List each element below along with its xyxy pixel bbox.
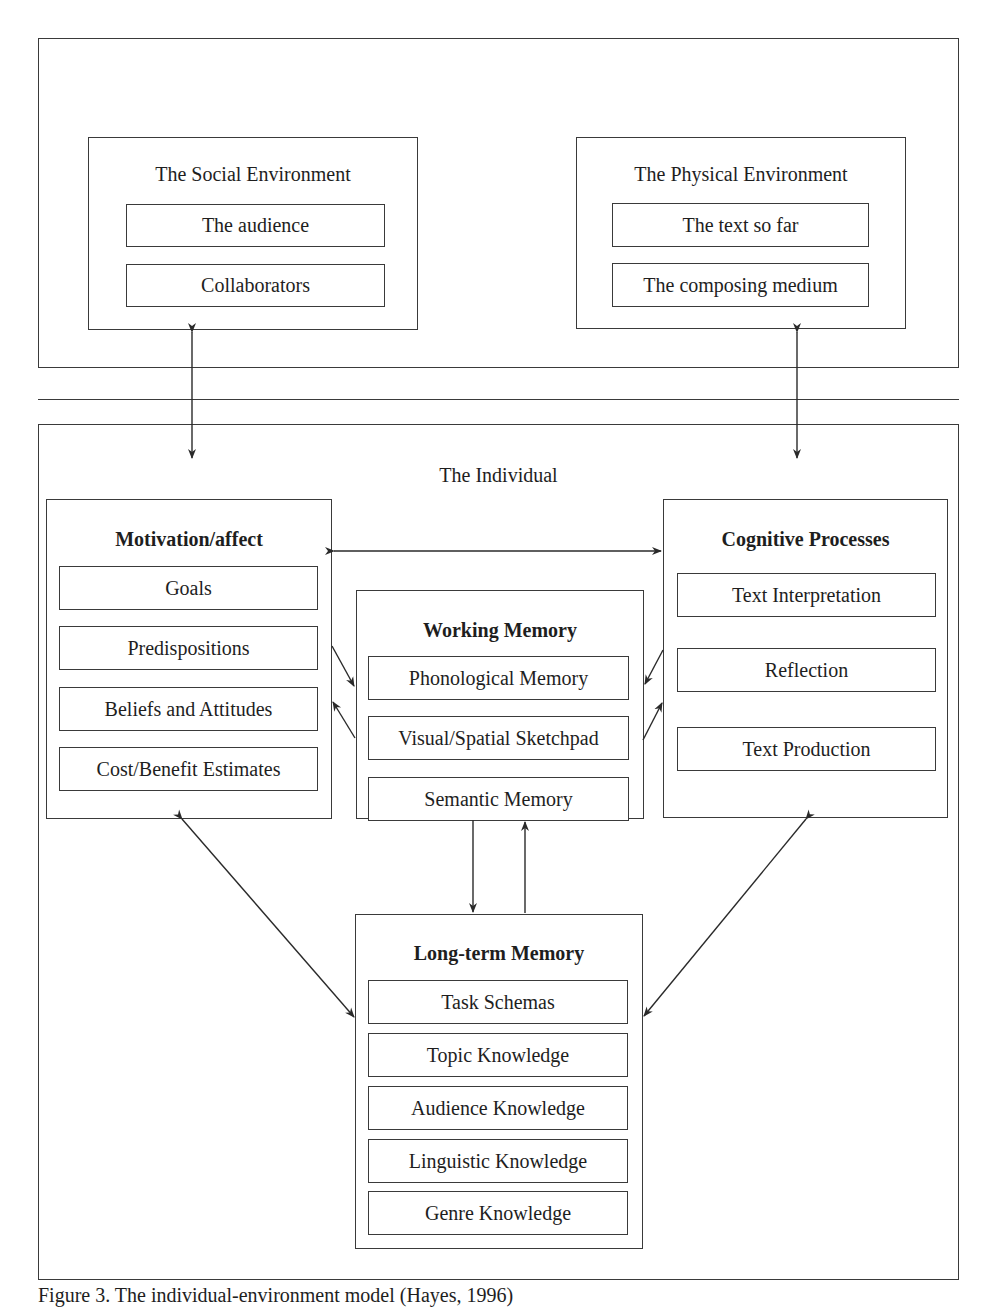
separator-line (38, 399, 959, 400)
physical-item-text-so-far: The text so far (612, 203, 869, 247)
long-term-memory-title: Long-term Memory (355, 942, 643, 965)
social-environment-title: The Social Environment (88, 163, 418, 186)
wm-item-semantic: Semantic Memory (368, 777, 629, 821)
cognitive-processes-title: Cognitive Processes (663, 528, 948, 551)
motivation-item-beliefs: Beliefs and Attitudes (59, 687, 318, 731)
motivation-item-predispositions: Predispositions (59, 626, 318, 670)
ltm-item-topic-knowledge: Topic Knowledge (368, 1033, 628, 1077)
wm-item-phonological: Phonological Memory (368, 656, 629, 700)
cognitive-item-text-production: Text Production (677, 727, 936, 771)
motivation-title: Motivation/affect (46, 528, 332, 551)
physical-environment-title: The Physical Environment (576, 163, 906, 186)
ltm-item-genre-knowledge: Genre Knowledge (368, 1191, 628, 1235)
ltm-item-audience-knowledge: Audience Knowledge (368, 1086, 628, 1130)
ltm-item-task-schemas: Task Schemas (368, 980, 628, 1024)
social-item-collaborators: Collaborators (126, 264, 385, 307)
motivation-item-goals: Goals (59, 566, 318, 610)
physical-item-composing-medium: The composing medium (612, 263, 869, 307)
cognitive-item-text-interpretation: Text Interpretation (677, 573, 936, 617)
individual-title: The Individual (38, 464, 959, 487)
wm-item-visual-spatial: Visual/Spatial Sketchpad (368, 716, 629, 760)
motivation-item-cost-benefit: Cost/Benefit Estimates (59, 747, 318, 791)
figure-caption: Figure 3. The individual-environment mod… (38, 1284, 513, 1307)
cognitive-item-reflection: Reflection (677, 648, 936, 692)
social-item-audience: The audience (126, 204, 385, 247)
ltm-item-linguistic-knowledge: Linguistic Knowledge (368, 1139, 628, 1183)
working-memory-title: Working Memory (356, 619, 644, 642)
